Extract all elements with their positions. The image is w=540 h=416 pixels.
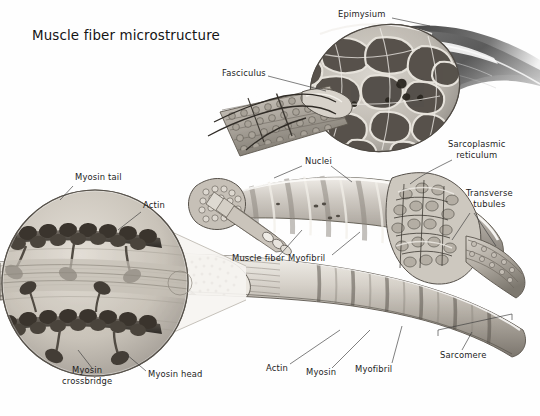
label-myofibril-middle: Myofibril <box>288 253 325 264</box>
label-actin-inset: Actin <box>143 200 165 211</box>
label-myosin-crossbridge: Myosin crossbridge <box>62 365 112 386</box>
page-title: Muscle fiber microstructure <box>32 28 220 43</box>
label-fasciculus: Fasciculus <box>222 68 266 79</box>
label-myosin-head: Myosin head <box>148 369 203 380</box>
label-sarcoplasmic-reticulum: Sarcoplasmic reticulum <box>448 139 505 160</box>
label-sarcomere: Sarcomere <box>440 350 487 361</box>
label-muscle-fiber: Muscle fiber <box>232 253 285 264</box>
label-transverse-tubules: Transverse tubules <box>466 188 513 209</box>
label-nuclei: Nuclei <box>305 156 332 167</box>
label-epimysium: Epimysium <box>338 9 386 20</box>
label-myosin-bottom: Myosin <box>306 367 336 378</box>
label-actin-bottom: Actin <box>266 363 288 374</box>
figure-canvas: Muscle fiber microstructure Epimysium Fa… <box>0 0 540 416</box>
label-myosin-tail: Myosin tail <box>75 172 122 183</box>
label-myofibril-bottom: Myofibril <box>355 364 392 375</box>
